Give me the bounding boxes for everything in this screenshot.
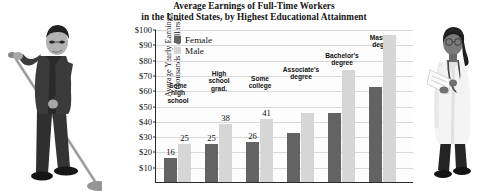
bar-female[interactable]: 26 — [246, 142, 259, 182]
bar-male[interactable] — [301, 113, 314, 182]
chart-title: Average Earnings of Full-Time Workers in… — [104, 1, 404, 22]
bar-group-masters-degree: Master's degree — [369, 30, 397, 182]
category-label: Some college — [237, 75, 283, 90]
category-label-line: school — [196, 77, 242, 84]
chart-title-line-1: Average Earnings of Full-Time Workers — [104, 1, 404, 12]
y-tick-label: $20 — [139, 147, 152, 157]
bar-value-male: 38 — [221, 113, 230, 123]
y-tick-label: $30 — [139, 132, 152, 142]
category-label-line: grad. — [196, 85, 242, 92]
category-label-line: Some — [237, 75, 283, 82]
y-tick-label: $60 — [139, 86, 152, 96]
bar-female[interactable] — [328, 113, 341, 182]
bar-female[interactable]: 16 — [164, 158, 177, 183]
bar-male[interactable]: 38 — [219, 124, 232, 182]
bar-value-male: 25 — [180, 133, 189, 143]
chart-figure: Average Earnings of Full-Time Workers in… — [0, 0, 489, 191]
category-label-line: High — [196, 70, 242, 77]
category-label-line: high — [155, 89, 201, 96]
bar-female[interactable] — [287, 133, 300, 182]
category-label: Bachelor's degree — [319, 52, 365, 67]
category-label-line: Bachelor's — [319, 52, 365, 59]
category-label: High school grad. — [196, 70, 242, 92]
y-tick-label: $70 — [139, 71, 152, 81]
category-label: Some high school — [155, 82, 201, 104]
plot-area: Average Yearly Earnings (thousands of do… — [155, 30, 413, 183]
bar-group-associates-degree: Associate's degree — [287, 30, 315, 182]
category-label: Associate's degree — [278, 66, 324, 81]
bar-female[interactable]: 25 — [205, 144, 218, 182]
bar-male[interactable] — [342, 70, 355, 182]
y-tick-label: $50 — [139, 102, 152, 112]
category-label-line: school — [155, 97, 201, 104]
category-label-line: degree — [319, 59, 365, 66]
doctor-with-clipboard-photo — [418, 10, 486, 191]
bar-group-some-college: Some college 26 41 — [246, 30, 274, 182]
bar-group-some-high-school: Some high school 16 25 — [164, 30, 192, 182]
y-tick-label: $10 — [139, 163, 152, 173]
category-label-line: Associate's — [278, 66, 324, 73]
bar-male[interactable] — [383, 35, 396, 182]
category-label-line: Some — [155, 82, 201, 89]
bar-value-female: 26 — [248, 131, 257, 141]
bar-value-female: 16 — [166, 147, 175, 157]
janitor-with-mop-photo — [6, 14, 102, 191]
chart-title-line-2: in the United States, by Highest Educati… — [104, 12, 404, 23]
y-tick-label: $100 — [135, 25, 152, 35]
bar-value-male: 41 — [262, 108, 271, 118]
bar-value-female: 25 — [207, 133, 216, 143]
category-label-line: college — [237, 82, 283, 89]
y-tick-label: $90 — [139, 40, 152, 50]
bar-group-high-school-grad: High school grad. 25 38 — [205, 30, 233, 182]
bar-male[interactable]: 41 — [260, 119, 273, 182]
y-tick-label: $40 — [139, 117, 152, 127]
bar-male[interactable]: 25 — [178, 144, 191, 182]
bar-female[interactable] — [369, 87, 382, 182]
category-label-line: degree — [278, 73, 324, 80]
y-tick-label: $80 — [139, 56, 152, 66]
bar-group-bachelors-degree: Bachelor's degree — [328, 30, 356, 182]
